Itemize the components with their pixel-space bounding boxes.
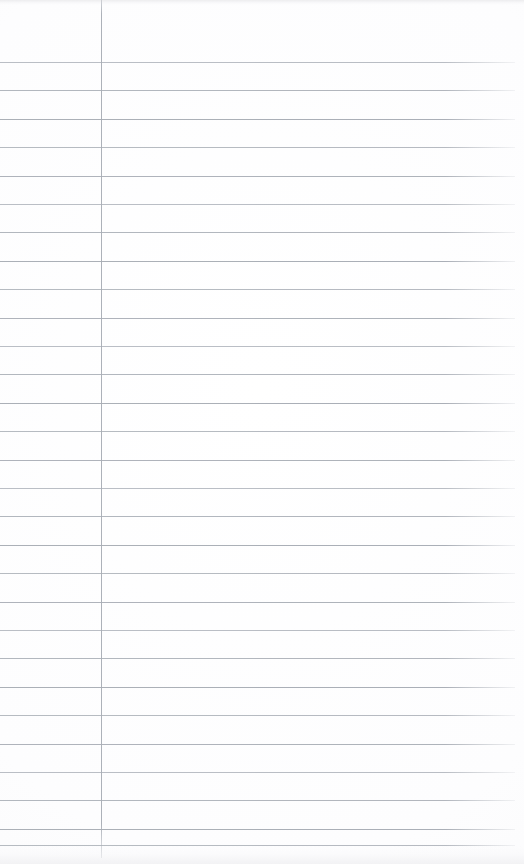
writing-area[interactable]: [102, 62, 515, 845]
rule-line: [0, 845, 515, 846]
margin-column[interactable]: [0, 62, 101, 845]
header-area[interactable]: [0, 0, 524, 62]
notepad-page: Blank Lined Notebook Page: [0, 0, 524, 864]
